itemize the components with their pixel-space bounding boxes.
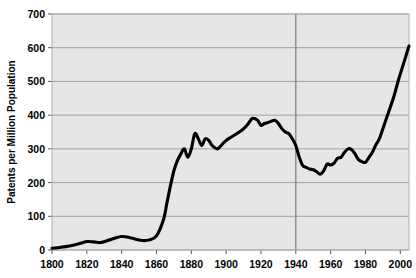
svg-text:500: 500 — [27, 75, 45, 87]
svg-text:200: 200 — [27, 177, 45, 189]
svg-text:700: 700 — [27, 8, 45, 20]
svg-text:1920: 1920 — [249, 258, 273, 270]
svg-text:1820: 1820 — [75, 258, 99, 270]
svg-text:1980: 1980 — [354, 258, 378, 270]
svg-text:2000: 2000 — [389, 258, 413, 270]
svg-text:1900: 1900 — [214, 258, 238, 270]
patents-line-chart: 7006005004003002001000 18001820184018601… — [0, 0, 416, 278]
svg-text:1940: 1940 — [284, 258, 308, 270]
plot-area-background — [52, 14, 409, 250]
svg-text:1860: 1860 — [145, 258, 169, 270]
svg-text:100: 100 — [27, 210, 45, 222]
x-axis-tick-labels: 1800182018401860188019001920194019601980… — [40, 258, 412, 270]
svg-text:400: 400 — [27, 109, 45, 121]
y-axis-title: Patents per Million Population — [6, 60, 17, 203]
svg-text:1800: 1800 — [40, 258, 64, 270]
chart-canvas: 7006005004003002001000 18001820184018601… — [0, 0, 416, 278]
svg-text:300: 300 — [27, 143, 45, 155]
svg-text:1960: 1960 — [319, 258, 343, 270]
svg-text:1880: 1880 — [180, 258, 204, 270]
svg-text:600: 600 — [27, 42, 45, 54]
svg-text:1840: 1840 — [110, 258, 134, 270]
svg-text:0: 0 — [39, 244, 45, 256]
